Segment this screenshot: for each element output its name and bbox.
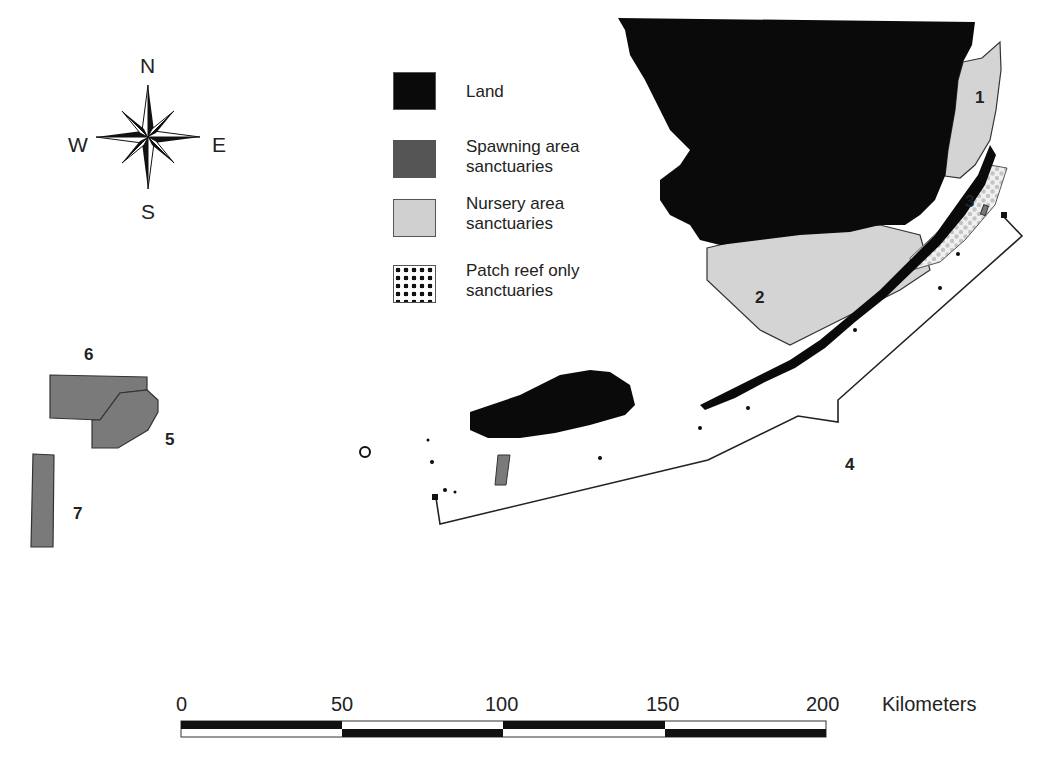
region-5-label: 5 (165, 430, 174, 450)
map-canvas (0, 0, 1052, 764)
nursery-swatch-icon (393, 199, 436, 237)
scale-tick-50: 50 (331, 693, 353, 716)
region-7-label: 7 (73, 504, 82, 524)
compass-rose-icon (96, 85, 200, 189)
region-6-label: 6 (84, 345, 93, 365)
compass-north-label: N (140, 54, 155, 78)
compass-east-label: E (212, 133, 226, 157)
region-2-label: 2 (755, 288, 764, 308)
legend-label: Land (466, 82, 636, 102)
scale-bar (181, 721, 826, 737)
region-7-spawning (31, 454, 54, 547)
patch-reef-swatch-icon (393, 265, 436, 303)
scale-tick-150: 150 (646, 693, 679, 716)
legend-label: Spawning area sanctuaries (466, 137, 636, 177)
scale-tick-0: 0 (176, 693, 187, 716)
scale-unit-label: Kilometers (882, 693, 976, 716)
compass-west-label: W (68, 133, 88, 157)
region-3-label: 3 (965, 192, 974, 212)
spawning-sanctuary-lower-keys (495, 455, 510, 485)
spawning-swatch-icon (393, 140, 436, 178)
scale-tick-200: 200 (806, 693, 839, 716)
compass-south-label: S (141, 200, 155, 224)
land-mainland (618, 18, 975, 245)
region-4-label: 4 (845, 455, 854, 475)
legend-label: Patch reef only sanctuaries (466, 261, 636, 301)
region-1-label: 1 (975, 88, 984, 108)
land-swatch-icon (393, 72, 436, 110)
scale-tick-100: 100 (485, 693, 518, 716)
legend-label: Nursery area sanctuaries (466, 194, 636, 234)
land-lower-keys (470, 370, 635, 438)
